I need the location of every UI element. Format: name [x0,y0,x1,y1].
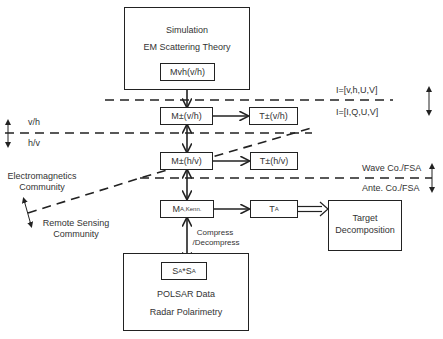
compress-label-line1: Compress [190,229,240,237]
ante-co-label: Ante. Co./FSA [362,184,420,193]
basis-lower-label: h/v [28,139,40,148]
t-hv-node[interactable]: T±(h/v) [250,152,298,170]
t-a-sub: A [275,206,279,212]
compress-label-line2: /Decompress [190,239,242,247]
polsar-subtitle: Radar Polarimetry [123,308,249,317]
m-a-main: M [173,204,181,214]
rs-community-line1: Remote Sensing [36,219,116,228]
sa-sa-node[interactable]: SA*SA [161,262,207,280]
t-vh-node[interactable]: T±(v/h) [249,107,298,125]
em-community-line1: Electromagnetics [2,172,82,181]
stokes-lower-label: I=[I,Q,U,V] [336,108,378,117]
target-decomposition-line2: Decomposition [328,226,402,235]
m-a-kennaugh-node[interactable]: MA,Kenn. [160,200,214,218]
target-decomposition-line1: Target [328,214,402,223]
m-vh-node[interactable]: M±(v/h) [160,107,213,125]
t-a-node[interactable]: TA [250,200,298,218]
m-a-sub: A,Kenn. [180,206,201,212]
simulation-subtitle: EM Scattering Theory [124,43,250,52]
sa-sa-s2: *S [182,266,192,276]
em-community-line2: Community [2,183,82,192]
mvh-node[interactable]: Mvh(v/h) [160,63,215,81]
m-hv-node[interactable]: M±(h/v) [160,152,213,170]
simulation-title: Simulation [124,26,250,35]
polsar-title: POLSAR Data [123,290,249,299]
basis-upper-label: v/h [28,118,40,127]
rs-community-line2: Community [36,230,116,239]
sa-sa-sub2: A [192,268,196,274]
stokes-upper-label: I=[v,h,U,V] [336,86,378,95]
wave-co-label: Wave Co./FSA [362,164,421,173]
